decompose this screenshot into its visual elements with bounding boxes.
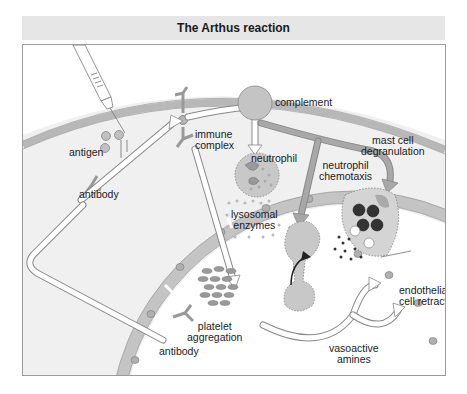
diagram-frame: antigen antibody immune complex compleme… [22,44,446,376]
label-immune-complex: immune complex [195,129,234,151]
figure-title-band: The Arthus reaction [22,16,445,40]
label-neutrophil: neutrophil [251,153,297,164]
label-mast-cell-degranulation: mast cell degranulation [361,135,425,157]
figure-title: The Arthus reaction [177,21,290,35]
label-neutrophil-chemotaxis: neutrophil chemotaxis [319,160,372,182]
complement-icon [238,86,272,120]
label-antibody-top: antibody [79,189,119,200]
label-lysosomal-enzymes: lysosomal enzymes [231,209,278,231]
label-platelet-aggregation: platelet aggregation [187,321,242,343]
label-complement: complement [275,97,332,108]
label-endothelial-retraction: endothelial cell retraction [399,285,446,307]
label-antibody-bottom: antibody [159,346,199,357]
label-vasoactive-amines: vasoactive amines [329,343,379,365]
label-antigen: antigen [69,147,103,158]
